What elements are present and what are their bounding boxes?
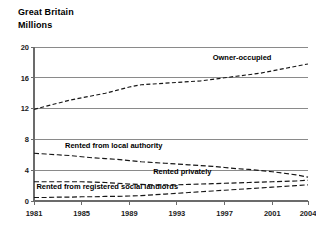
y-axis-ticks: 048121620 xyxy=(21,43,34,206)
series-line xyxy=(34,64,308,109)
x-tick-label: 2004 xyxy=(300,209,316,218)
x-tick-label: 1989 xyxy=(121,209,138,218)
gridlines-group xyxy=(34,47,308,201)
x-tick-label: 2001 xyxy=(264,209,281,218)
y-tick-label: 16 xyxy=(21,74,29,83)
y-tick-label: 0 xyxy=(25,197,29,206)
x-tick-label: 1985 xyxy=(73,209,90,218)
y-tick-label: 4 xyxy=(25,166,30,175)
x-axis-ticks: 1981198519891993199720012004 xyxy=(26,201,316,218)
series-annotation-label: Rented privately xyxy=(153,167,212,176)
series-group xyxy=(34,64,308,198)
line-chart-plot: 048121620 1981198519891993199720012004 O… xyxy=(0,0,316,239)
x-tick-label: 1997 xyxy=(216,209,233,218)
chart-container: Great Britain Millions 048121620 1981198… xyxy=(0,0,316,239)
y-tick-label: 20 xyxy=(21,43,29,52)
y-tick-label: 8 xyxy=(25,135,29,144)
series-annotation-label: Rented from registered social landlords xyxy=(36,182,178,191)
x-tick-label: 1993 xyxy=(169,209,186,218)
series-annotation-label: Owner-occupied xyxy=(213,53,272,62)
series-annotation-label: Rented from local authority xyxy=(65,141,163,150)
y-tick-label: 12 xyxy=(21,104,29,113)
x-tick-label: 1981 xyxy=(26,209,43,218)
